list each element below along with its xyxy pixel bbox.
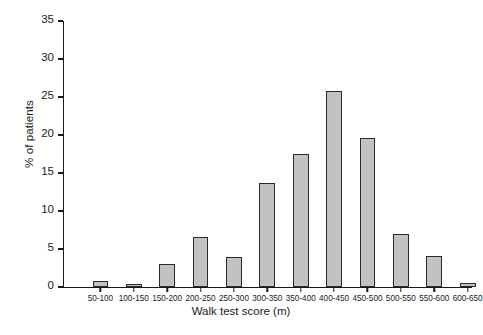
x-tick <box>434 287 435 292</box>
x-axis-title: Walk test score (m) <box>0 305 482 317</box>
bar <box>259 183 275 287</box>
bar <box>426 256 442 287</box>
x-tick-label: 300-350 <box>252 294 282 304</box>
bar <box>293 154 309 287</box>
x-tick <box>333 287 334 292</box>
x-tick-label: 100-150 <box>119 294 149 304</box>
x-tick <box>100 287 101 292</box>
y-tick: 15 <box>58 172 63 173</box>
bar <box>460 283 476 287</box>
x-tick <box>233 287 234 292</box>
x-tick-label: 200-250 <box>186 294 216 304</box>
bar <box>159 264 175 287</box>
y-tick: 10 <box>58 210 63 211</box>
x-tick-label: 400-450 <box>319 294 349 304</box>
y-tick: 30 <box>58 58 63 59</box>
y-tick-label: 5 <box>48 241 54 254</box>
x-tick-label: 150-200 <box>152 294 182 304</box>
x-tick <box>367 287 368 292</box>
x-tick-label: 450-500 <box>352 294 382 304</box>
plot-area: 05101520253035 50-100100-150150-200200-2… <box>63 21 472 287</box>
x-tick <box>267 287 268 292</box>
bar <box>126 284 142 287</box>
x-tick-label: 350-400 <box>286 294 316 304</box>
x-tick-label: 500-550 <box>386 294 416 304</box>
x-tick <box>166 287 167 292</box>
x-tick <box>200 287 201 292</box>
y-tick: 0 <box>58 286 63 287</box>
bar <box>360 138 376 287</box>
y-tick: 5 <box>58 248 63 249</box>
y-tick-label: 20 <box>41 127 54 140</box>
x-tick <box>467 287 468 292</box>
x-tick-label: 550-600 <box>419 294 449 304</box>
y-tick-label: 30 <box>41 51 54 64</box>
y-axis-title: % of patients <box>23 59 35 209</box>
y-tick: 35 <box>58 20 63 21</box>
x-tick-label: 50-100 <box>88 294 114 304</box>
y-tick: 20 <box>58 134 63 135</box>
bar <box>326 91 342 287</box>
y-tick-label: 35 <box>41 13 54 26</box>
x-tick-label: 600-650 <box>453 294 483 304</box>
y-tick-label: 0 <box>48 279 54 292</box>
bar <box>393 234 409 287</box>
y-tick-label: 10 <box>41 203 54 216</box>
x-tick <box>300 287 301 292</box>
y-axis-line <box>63 21 64 287</box>
x-tick <box>133 287 134 292</box>
bar <box>226 257 242 287</box>
bar <box>93 281 109 287</box>
y-tick-label: 15 <box>41 165 54 178</box>
x-tick <box>400 287 401 292</box>
y-tick: 25 <box>58 96 63 97</box>
x-tick-label: 250-300 <box>219 294 249 304</box>
y-tick-label: 25 <box>41 89 54 102</box>
bar <box>193 237 209 287</box>
